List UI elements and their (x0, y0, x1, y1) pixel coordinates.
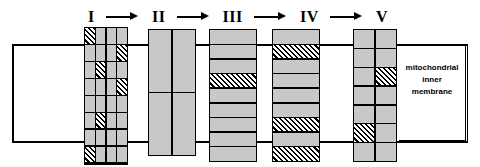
etc-diagram: I II III IV V mitochondrial inner membra… (0, 0, 480, 167)
subunit-plain (107, 28, 116, 44)
subunit-hatch (354, 124, 374, 141)
subunit-plain (273, 74, 318, 87)
subunit-plain (210, 133, 255, 146)
subunit-plain (354, 87, 374, 104)
chain-arrow-3-to-4 (254, 11, 288, 23)
subunit-plain (210, 89, 255, 102)
subunit-hatch (210, 74, 255, 87)
subunit-plain (96, 130, 105, 146)
subunit-plain (376, 106, 396, 123)
subunit-plain (376, 30, 396, 47)
complex-i (84, 27, 128, 165)
membrane-label-line-3: membrane (400, 86, 464, 98)
membrane-label-line-1: mitochondrial (400, 62, 464, 74)
membrane-label-box: mitochondrial inner membrane (399, 45, 466, 141)
subunit-plain (354, 106, 374, 123)
membrane-label-line-2: inner (400, 74, 464, 86)
subunit-hatch (273, 147, 318, 160)
complex-sequence-header: I II III IV V (88, 6, 388, 28)
chain-label-2: II (152, 9, 165, 25)
subunit-plain (273, 104, 318, 117)
subunit-plain (96, 28, 105, 44)
subunit-plain (96, 79, 105, 95)
subunit-plain (107, 147, 116, 163)
subunit-plain (354, 143, 374, 160)
complex-iii (209, 29, 257, 162)
subunit-plain (117, 28, 126, 44)
membrane-left-edge (12, 44, 14, 143)
subunit-plain (273, 30, 318, 43)
subunit-hatch (273, 45, 318, 58)
subunit-plain (210, 147, 255, 160)
subunit-plain (107, 96, 116, 112)
subunit-plain (173, 30, 195, 91)
subunit-plain (273, 89, 318, 102)
chain-label-3: III (223, 9, 243, 25)
subunit-plain (210, 30, 255, 43)
subunit-plain (107, 45, 116, 61)
subunit-plain (149, 30, 171, 91)
subunit-plain (210, 45, 255, 58)
subunit-plain (117, 62, 126, 78)
subunit-plain (107, 130, 116, 146)
subunit-hatch (117, 45, 126, 61)
subunit-plain (107, 62, 116, 78)
subunit-plain (85, 113, 94, 129)
subunit-plain (210, 104, 255, 117)
subunit-plain (85, 45, 94, 61)
subunit-plain (173, 93, 195, 154)
subunit-plain (376, 87, 396, 104)
subunit-plain (96, 147, 105, 163)
complex-ii (148, 29, 196, 156)
complex-5-grid (353, 29, 397, 162)
subunit-plain (85, 79, 94, 95)
complex-v (353, 29, 397, 162)
subunit-plain (117, 147, 126, 163)
subunit-plain (376, 143, 396, 160)
chain-arrow-4-to-5 (330, 11, 364, 23)
subunit-plain (85, 130, 94, 146)
subunit-plain (376, 49, 396, 66)
complex-2-grid (148, 29, 196, 156)
complex-3-grid (209, 29, 257, 162)
subunit-hatch (85, 28, 94, 44)
chain-arrow-1-to-2 (106, 11, 140, 23)
subunit-plain (354, 68, 374, 85)
subunit-hatch (273, 118, 318, 131)
subunit-hatch (117, 79, 126, 95)
complex-4-grid (272, 29, 320, 162)
subunit-plain (85, 62, 94, 78)
complex-1-grid (84, 27, 128, 165)
membrane-right-edge (467, 44, 469, 143)
subunit-plain (354, 30, 374, 47)
subunit-hatch (85, 147, 94, 163)
subunit-plain (117, 113, 126, 129)
chain-label-1: I (88, 9, 95, 25)
subunit-plain (117, 130, 126, 146)
subunit-plain (107, 113, 116, 129)
subunit-plain (117, 96, 126, 112)
subunit-plain (107, 79, 116, 95)
subunit-plain (354, 49, 374, 66)
subunit-plain (210, 60, 255, 73)
subunit-plain (376, 124, 396, 141)
subunit-plain (149, 93, 171, 154)
subunit-plain (85, 96, 94, 112)
chain-arrow-2-to-3 (177, 11, 211, 23)
subunit-plain (210, 118, 255, 131)
subunit-plain (96, 45, 105, 61)
complex-iv (272, 29, 320, 162)
membrane-label-text: mitochondrial inner membrane (400, 62, 464, 98)
subunit-plain (273, 60, 318, 73)
chain-label-4: IV (300, 9, 319, 25)
subunit-plain (273, 133, 318, 146)
subunit-hatch (376, 68, 396, 85)
chain-label-5: V (376, 9, 388, 25)
subunit-hatch (96, 62, 105, 78)
subunit-plain (96, 96, 105, 112)
subunit-hatch (96, 113, 105, 129)
